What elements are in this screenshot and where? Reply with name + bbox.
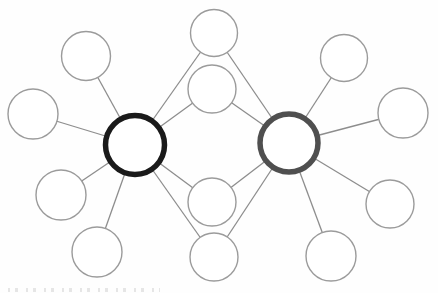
graph-node-right-far-lower — [366, 180, 414, 228]
graph-node-hub-right-hub — [260, 114, 318, 172]
cropped-caption-fragment — [8, 288, 160, 292]
network-graph — [0, 0, 438, 293]
graph-node-left-far — [8, 89, 58, 139]
graph-node-left-top — [62, 32, 111, 81]
figure-canvas — [0, 0, 438, 293]
graph-node-right-top — [321, 35, 368, 82]
graph-node-right-bottom — [306, 231, 356, 281]
graph-node-right-far-upper — [378, 88, 428, 138]
graph-node-mid-top — [191, 10, 238, 57]
graph-node-left-bottom — [72, 227, 122, 277]
graph-node-mid-upper — [188, 65, 236, 113]
graph-node-mid-lower — [188, 178, 236, 226]
graph-node-mid-bottom — [190, 233, 238, 281]
graph-node-hub-left-hub — [106, 116, 165, 175]
graph-node-left-lower — [36, 170, 86, 220]
